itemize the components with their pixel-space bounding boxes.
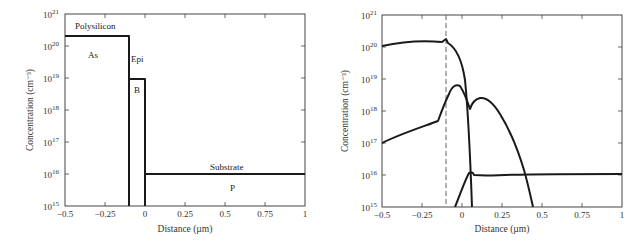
left-x-tick-labels: −0.5 −0.25 0 0.25 0.5 0.75 1 xyxy=(57,209,307,219)
svg-text:−0.25: −0.25 xyxy=(412,210,433,220)
left-y-axis-title: Concentration (cm⁻³) xyxy=(25,69,36,151)
b-diffused-profile xyxy=(382,85,533,207)
right-x-axis-title: Distance (µm) xyxy=(475,224,530,235)
left-x-axis-title: Distance (µm) xyxy=(158,224,213,235)
svg-text:1019: 1019 xyxy=(361,73,378,85)
svg-text:1016: 1016 xyxy=(361,169,378,181)
svg-text:1020: 1020 xyxy=(43,40,60,52)
svg-text:1018: 1018 xyxy=(361,105,378,117)
right-y-tick-labels: 1021 1020 1019 1018 1017 1016 1015 xyxy=(361,9,378,213)
svg-text:1018: 1018 xyxy=(43,104,60,116)
b-profile-step xyxy=(129,79,145,206)
left-plot-frame xyxy=(65,14,305,206)
svg-text:0.25: 0.25 xyxy=(494,210,510,220)
svg-text:1021: 1021 xyxy=(43,8,60,20)
svg-text:1: 1 xyxy=(303,209,308,219)
svg-text:0.5: 0.5 xyxy=(219,209,231,219)
svg-text:0.75: 0.75 xyxy=(257,209,273,219)
figure: 1021 1020 1019 1018 1017 1016 1015 −0.5 … xyxy=(0,0,642,242)
p-diffused-profile xyxy=(455,172,622,207)
as-diffused-profile xyxy=(382,39,472,207)
svg-text:−0.25: −0.25 xyxy=(95,209,116,219)
label-p: P xyxy=(230,183,235,193)
right-plot-frame xyxy=(382,15,622,207)
left-y-ticks xyxy=(65,46,305,174)
svg-text:−0.5: −0.5 xyxy=(57,209,74,219)
svg-text:1016: 1016 xyxy=(43,168,60,180)
svg-text:0.5: 0.5 xyxy=(536,210,548,220)
label-as: As xyxy=(88,50,98,60)
right-x-tick-labels: −0.5 −0.25 0 0.25 0.5 0.75 1 xyxy=(374,210,624,220)
svg-text:1017: 1017 xyxy=(43,136,60,148)
label-polysilicon: Polysilicon xyxy=(75,21,116,31)
svg-text:0.75: 0.75 xyxy=(574,210,590,220)
label-b: B xyxy=(134,85,140,95)
right-chart: 1021 1020 1019 1018 1017 1016 1015 −0.5 … xyxy=(340,9,624,235)
right-y-axis-title: Concentration (cm⁻³) xyxy=(340,70,351,152)
svg-text:1017: 1017 xyxy=(361,137,378,149)
svg-text:−0.5: −0.5 xyxy=(374,210,391,220)
label-substrate: Substrate xyxy=(210,162,244,172)
svg-text:1020: 1020 xyxy=(361,41,378,53)
svg-text:1021: 1021 xyxy=(361,9,378,21)
left-chart: 1021 1020 1019 1018 1017 1016 1015 −0.5 … xyxy=(25,8,307,235)
left-y-tick-labels: 1021 1020 1019 1018 1017 1016 1015 xyxy=(43,8,60,212)
svg-text:0: 0 xyxy=(460,210,465,220)
right-y-ticks xyxy=(382,47,622,175)
svg-text:0: 0 xyxy=(143,209,148,219)
svg-text:1019: 1019 xyxy=(43,72,60,84)
label-epi: Epi xyxy=(131,54,144,64)
svg-text:0.25: 0.25 xyxy=(177,209,193,219)
svg-text:1: 1 xyxy=(620,210,625,220)
as-profile-step xyxy=(65,36,129,206)
